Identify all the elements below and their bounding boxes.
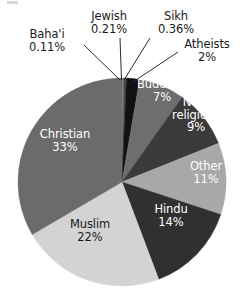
pie-chart: Baha'i 0.11% Jewish 0.21% Sikh 0.36% Ath… bbox=[0, 0, 242, 300]
leader-line-group bbox=[84, 38, 178, 82]
slice-label-christian: Christian 33% bbox=[32, 128, 98, 153]
slice-label-buddhist-name: Buddhist bbox=[133, 78, 191, 91]
slice-label-nonreligious: Non- religious 9% bbox=[170, 96, 222, 134]
slice-label-nonreligious-name: Non- bbox=[170, 96, 222, 109]
slice-label-christian-value: 33% bbox=[32, 141, 98, 154]
slice-label-atheists-name: Atheists bbox=[174, 38, 240, 51]
slice-label-bahai-value: 0.11% bbox=[10, 41, 84, 54]
slice-label-hindu-name: Hindu bbox=[146, 203, 196, 216]
slice-label-muslim-value: 22% bbox=[62, 231, 118, 244]
leader-line-jewish bbox=[120, 38, 122, 80]
slice-label-bahai: Baha'i 0.11% bbox=[10, 28, 84, 53]
slice-label-sikh: Sikh 0.36% bbox=[148, 10, 204, 35]
slice-label-hindu-value: 14% bbox=[146, 216, 196, 229]
slice-label-other-value: 11% bbox=[182, 173, 230, 186]
slice-label-other: Other 11% bbox=[182, 160, 230, 185]
slice-label-sikh-value: 0.36% bbox=[148, 23, 204, 36]
slice-label-christian-name: Christian bbox=[32, 128, 98, 141]
slice-label-sikh-name: Sikh bbox=[148, 10, 204, 23]
slice-label-jewish: Jewish 0.21% bbox=[76, 10, 142, 35]
slice-label-nonreligious-value: 9% bbox=[170, 121, 222, 134]
slice-label-atheists: Atheists 2% bbox=[174, 38, 240, 63]
slice-label-muslim: Muslim 22% bbox=[62, 218, 118, 243]
leader-line-bahai bbox=[84, 45, 120, 80]
slice-label-hindu: Hindu 14% bbox=[146, 203, 196, 228]
slice-label-other-name: Other bbox=[182, 160, 230, 173]
slice-label-muslim-name: Muslim bbox=[62, 218, 118, 231]
slice-label-jewish-value: 0.21% bbox=[76, 23, 142, 36]
slice-label-bahai-name: Baha'i bbox=[10, 28, 84, 41]
slice-label-atheists-value: 2% bbox=[174, 51, 240, 64]
slice-label-jewish-name: Jewish bbox=[76, 10, 142, 23]
